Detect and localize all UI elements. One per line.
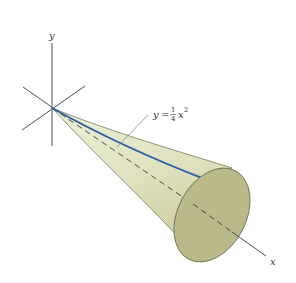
x-axis xyxy=(232,232,266,256)
curve-equation-label: y = 1 4 x 2 xyxy=(152,106,188,123)
svg-text:4: 4 xyxy=(171,115,176,123)
solid-of-revolution-diagram: y x y = 1 4 x 2 xyxy=(0,0,296,283)
figure: y x y = 1 4 x 2 xyxy=(0,0,296,283)
svg-text:=: = xyxy=(161,109,169,120)
svg-text:y: y xyxy=(152,109,159,120)
x-axis-label: x xyxy=(270,256,276,267)
y-axis-label: y xyxy=(48,30,55,41)
svg-text:1: 1 xyxy=(171,106,175,114)
svg-text:2: 2 xyxy=(184,106,188,114)
